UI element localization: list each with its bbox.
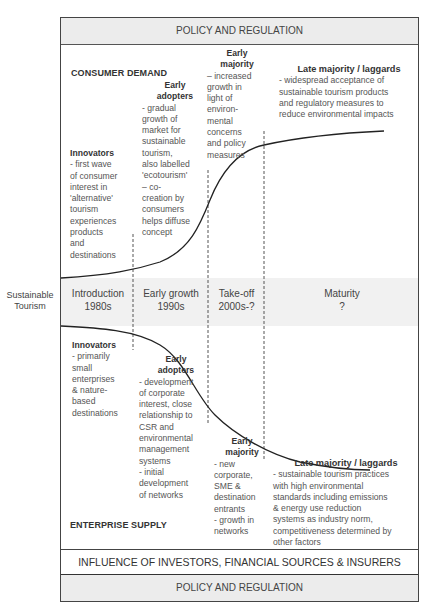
sustainable-tourism-label: Sustainable Tourism — [2, 290, 58, 312]
consumer-early-adopters-text: Early adopters - gradual growth of marke… — [142, 80, 208, 238]
supply-innovators-text: Innovators - primarily small enterprises… — [72, 340, 132, 419]
consumer-late-majority-text: Late majority / laggards - widespread ac… — [279, 64, 419, 120]
consumer-innovators-title: Innovators — [70, 148, 132, 159]
stage-maturity: Maturity ? — [266, 287, 418, 313]
enterprise-supply-label: ENTERPRISE SUPPLY — [70, 520, 167, 530]
supply-late-majority-text: Late majority / laggards - sustainable t… — [273, 458, 419, 548]
investors-influence-band: INFLUENCE OF INVESTORS, FINANCIAL SOURCE… — [61, 549, 418, 576]
stage-early-growth: Early growth 1990s — [135, 287, 207, 313]
stage-introduction: Introduction 1980s — [63, 287, 133, 313]
consumer-innovators-text: Innovators - first wave of consumer inte… — [70, 148, 132, 261]
stage-take-off: Take-off 2000s-? — [209, 287, 264, 313]
supply-early-adopters-text: Early adopters - development of corporat… — [139, 354, 213, 501]
consumer-early-majority-text: Early majority – increased growth in lig… — [207, 48, 267, 161]
policy-regulation-bottom-band: POLICY AND REGULATION — [61, 575, 418, 601]
consumer-demand-label: CONSUMER DEMAND — [71, 68, 167, 78]
supply-early-majority-text: Early majority - new corporate, SME & de… — [214, 436, 270, 538]
